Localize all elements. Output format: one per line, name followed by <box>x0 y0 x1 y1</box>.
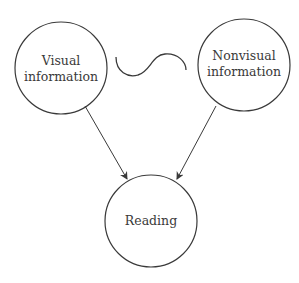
node-reading: Reading <box>105 175 197 267</box>
diagram-canvas: Visual information Nonvisual information… <box>0 0 299 283</box>
nonvisual-label-line2: information <box>207 64 281 79</box>
node-nonvisual-information: Nonvisual information <box>198 19 290 111</box>
wave-connector-icon <box>116 54 186 76</box>
arrow-nonvisual-to-reading <box>177 106 216 179</box>
visual-label-line2: information <box>24 69 98 84</box>
visual-label-line1: Visual <box>41 53 81 68</box>
visual-circle <box>15 22 107 114</box>
nonvisual-label-line1: Nonvisual <box>212 48 276 63</box>
reading-label: Reading <box>125 213 177 228</box>
node-visual-information: Visual information <box>15 22 107 114</box>
arrow-visual-to-reading <box>85 106 127 179</box>
